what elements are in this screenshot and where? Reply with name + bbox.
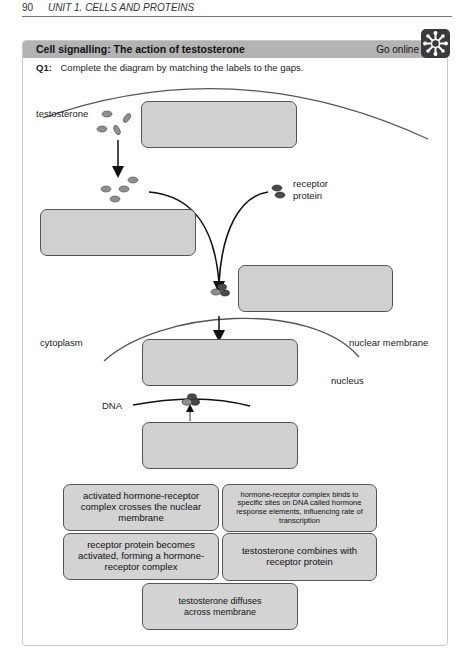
answer-tile[interactable]: testosterone combines with receptor prot…: [222, 533, 377, 581]
answer-tile[interactable]: testosterone diffuses across membrane: [142, 583, 298, 630]
label-dna: DNA: [102, 400, 122, 411]
label-nucleus: nucleus: [331, 375, 364, 386]
gap-2-drop-zone[interactable]: [40, 209, 196, 256]
gap-3-drop-zone[interactable]: [238, 265, 393, 312]
label-cytoplasm: cytoplasm: [40, 337, 83, 348]
label-testosterone: testosterone: [36, 108, 88, 119]
gap-4-drop-zone[interactable]: [142, 339, 298, 386]
gap-1-drop-zone[interactable]: [141, 101, 297, 148]
answer-tile[interactable]: activated hormone-receptor complex cross…: [63, 484, 219, 531]
label-nuclear-membrane: nuclear membrane: [349, 337, 428, 348]
gap-5-drop-zone[interactable]: [142, 422, 298, 469]
label-receptor-protein: receptor protein: [293, 178, 328, 202]
answer-tile[interactable]: hormone-receptor complex binds to specif…: [222, 484, 377, 532]
answer-tile[interactable]: receptor protein becomes activated, form…: [63, 533, 219, 580]
